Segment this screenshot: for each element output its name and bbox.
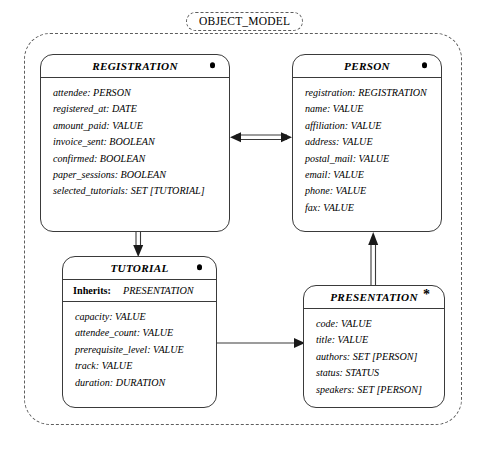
attribute-name: confirmed [53,153,94,164]
class-header-tutorial: TUTORIAL [63,257,216,280]
class-header-registration: REGISTRATION [41,55,229,78]
attribute-type: BOOLEAN [100,153,145,164]
object-model-diagram: OBJECT_MODEL REGISTRATION attendee: PERS… [0,0,485,453]
class-header-person: PERSON [293,55,441,78]
attribute-type: REGISTRATION [358,87,427,98]
attribute-name: duration [75,377,110,388]
attribute-name: prerequisite_level [75,344,147,355]
attribute-name: fax [305,202,317,213]
attribute-row: speakers: SET [PERSON] [304,382,444,398]
class-header-presentation: PRESENTATION * [304,286,444,309]
attribute-row: invoice_sent: BOOLEAN [41,134,229,150]
attribute-name: registration [305,87,352,98]
attribute-name: title [316,334,332,345]
attribute-row: registration: REGISTRATION [293,85,441,101]
attribute-name: phone [305,185,330,196]
attribute-row: selected_tutorials: SET [TUTORIAL] [41,183,229,199]
attribute-type: STATUS [345,367,379,378]
attribute-name: invoice_sent [53,136,103,147]
attribute-list-registration: attendee: PERSON registered_at: DATE amo… [41,78,229,207]
attribute-row: capacity: VALUE [63,309,216,325]
attribute-type: VALUE [359,153,390,164]
attribute-row: status: STATUS [304,365,444,381]
attribute-row: paper_sessions: BOOLEAN [41,167,229,183]
attribute-type: VALUE [153,344,184,355]
attribute-row: registered_at: DATE [41,101,229,117]
attribute-list-person: registration: REGISTRATION name: VALUE a… [293,78,441,223]
attribute-row: confirmed: BOOLEAN [41,151,229,167]
attribute-row: duration: DURATION [63,375,216,391]
attribute-row: phone: VALUE [293,183,441,199]
attribute-name: capacity [75,311,109,322]
attribute-name: attendee [53,87,87,98]
attribute-name: track [75,360,96,371]
attribute-row: postal_mail: VALUE [293,151,441,167]
attribute-type: VALUE [338,334,369,345]
class-box-registration[interactable]: REGISTRATION attendee: PERSON registered… [40,54,230,232]
inherits-row-tutorial: Inherits: PRESENTATION [63,280,216,302]
attribute-type: SET [TUTORIAL] [131,185,205,196]
attribute-row: code: VALUE [304,316,444,332]
attribute-type: SET [PERSON] [357,384,422,395]
attribute-type: SET [PERSON] [353,351,418,362]
class-name-registration: REGISTRATION [92,60,178,72]
attribute-name: speakers [316,384,351,395]
attribute-type: VALUE [351,120,382,131]
attribute-type: VALUE [143,327,174,338]
attribute-type: VALUE [323,202,354,213]
attribute-type: DATE [112,103,137,114]
attribute-list-presentation: code: VALUE title: VALUE authors: SET [P… [304,309,444,405]
attribute-type: VALUE [342,136,373,147]
class-marker-dot-person [422,62,428,68]
model-title: OBJECT_MODEL [186,12,303,31]
attribute-name: status [316,367,340,378]
attribute-name: attendee_count [75,327,137,338]
class-box-presentation[interactable]: PRESENTATION * code: VALUE title: VALUE … [303,285,445,408]
attribute-type: VALUE [333,103,364,114]
attribute-name: affiliation [305,120,345,131]
attribute-type: VALUE [115,311,146,322]
class-marker-dot-registration [210,62,216,68]
attribute-type: VALUE [341,318,372,329]
attribute-name: registered_at [53,103,106,114]
attribute-row: amount_paid: VALUE [41,118,229,134]
attribute-name: selected_tutorials [53,185,125,196]
attribute-name: authors [316,351,347,362]
attribute-row: affiliation: VALUE [293,118,441,134]
class-box-person[interactable]: PERSON registration: REGISTRATION name: … [292,54,442,232]
class-marker-dot-tutorial [197,264,203,270]
attribute-row: address: VALUE [293,134,441,150]
attribute-type: VALUE [102,360,133,371]
attribute-row: prerequisite_level: VALUE [63,342,216,358]
attribute-type: BOOLEAN [121,169,166,180]
attribute-row: track: VALUE [63,358,216,374]
attribute-type: VALUE [333,169,364,180]
attribute-type: BOOLEAN [109,136,154,147]
attribute-row: authors: SET [PERSON] [304,349,444,365]
attribute-type: DURATION [116,377,166,388]
attribute-name: address [305,136,336,147]
attribute-row: email: VALUE [293,167,441,183]
attribute-type: VALUE [336,185,367,196]
inherits-value: PRESENTATION [123,285,194,296]
class-box-tutorial[interactable]: TUTORIAL Inherits: PRESENTATION capacity… [62,256,217,408]
attribute-name: paper_sessions [53,169,115,180]
attribute-name: postal_mail [305,153,353,164]
class-name-person: PERSON [344,60,390,72]
attribute-row: title: VALUE [304,332,444,348]
class-name-tutorial: TUTORIAL [110,262,168,274]
attribute-name: email [305,169,327,180]
attribute-name: name [305,103,327,114]
attribute-row: fax: VALUE [293,200,441,216]
attribute-type: VALUE [112,120,143,131]
attribute-name: code [316,318,335,329]
class-name-presentation: PRESENTATION [330,291,418,303]
attribute-row: name: VALUE [293,101,441,117]
inherits-label: Inherits: [73,285,111,296]
class-marker-star-presentation: * [423,288,430,302]
attribute-row: attendee: PERSON [41,85,229,101]
attribute-name: amount_paid [53,120,106,131]
attribute-list-tutorial: capacity: VALUE attendee_count: VALUE pr… [63,302,216,398]
attribute-row: attendee_count: VALUE [63,325,216,341]
attribute-type: PERSON [93,87,131,98]
